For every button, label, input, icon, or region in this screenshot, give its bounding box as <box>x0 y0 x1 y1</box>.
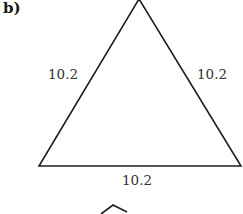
next-shape-partial <box>101 205 127 214</box>
side-length-right: 10.2 <box>197 66 227 82</box>
side-length-left: 10.2 <box>48 66 78 82</box>
side-length-bottom: 10.2 <box>122 172 152 188</box>
equilateral-triangle <box>39 0 241 166</box>
